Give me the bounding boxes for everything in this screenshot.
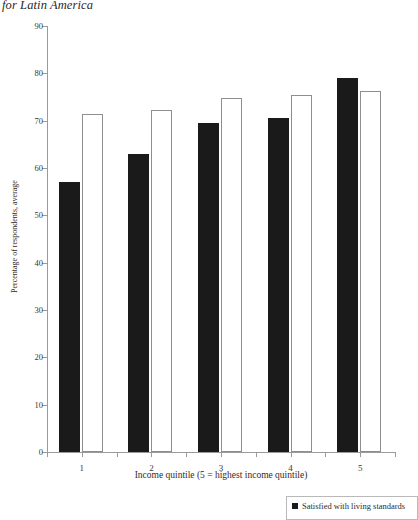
bar bbox=[128, 154, 149, 452]
x-tick-boundary bbox=[256, 452, 257, 457]
y-tick-label: 80 bbox=[35, 68, 44, 78]
x-tick-boundary bbox=[117, 452, 118, 457]
x-tick bbox=[151, 452, 152, 457]
x-tick bbox=[291, 452, 292, 457]
plot-area: 0102030405060708090 12345 bbox=[47, 26, 395, 452]
bar bbox=[360, 91, 381, 452]
x-tick bbox=[82, 452, 83, 457]
x-tick-boundary bbox=[47, 452, 48, 457]
y-tick-label: 30 bbox=[35, 305, 44, 315]
x-tick-boundary bbox=[186, 452, 187, 457]
x-tick-boundary bbox=[395, 452, 396, 457]
bar bbox=[291, 95, 312, 452]
bar bbox=[198, 123, 219, 452]
legend-item[interactable]: Satisfied with living standards bbox=[292, 501, 417, 511]
bar bbox=[151, 110, 172, 452]
bar bbox=[221, 98, 242, 452]
bar bbox=[268, 118, 289, 452]
legend-item-label: Satisfied with living standards bbox=[302, 501, 405, 511]
x-tick bbox=[221, 452, 222, 457]
y-tick-label: 20 bbox=[35, 352, 44, 362]
x-tick-boundary bbox=[325, 452, 326, 457]
y-axis-title: Percentage of respondents, average bbox=[10, 157, 19, 317]
y-tick-label: 40 bbox=[35, 258, 44, 268]
y-tick-label: 50 bbox=[35, 210, 44, 220]
y-tick-label: 60 bbox=[35, 163, 44, 173]
bar bbox=[59, 182, 80, 452]
bar bbox=[82, 114, 103, 452]
chart-legend: Satisfied with living standards bbox=[286, 496, 418, 520]
bar bbox=[337, 78, 358, 452]
y-tick-label: 90 bbox=[35, 21, 44, 31]
legend-swatch-icon bbox=[292, 503, 298, 509]
x-tick bbox=[360, 452, 361, 457]
y-tick-label: 10 bbox=[35, 400, 44, 410]
y-axis-line bbox=[47, 26, 48, 453]
y-tick-label: 70 bbox=[35, 116, 44, 126]
x-axis-title: Income quintile (5 = highest income quin… bbox=[47, 470, 395, 480]
chart-title: for Latin America bbox=[2, 0, 93, 13]
y-tick-label: 0 bbox=[39, 447, 43, 457]
